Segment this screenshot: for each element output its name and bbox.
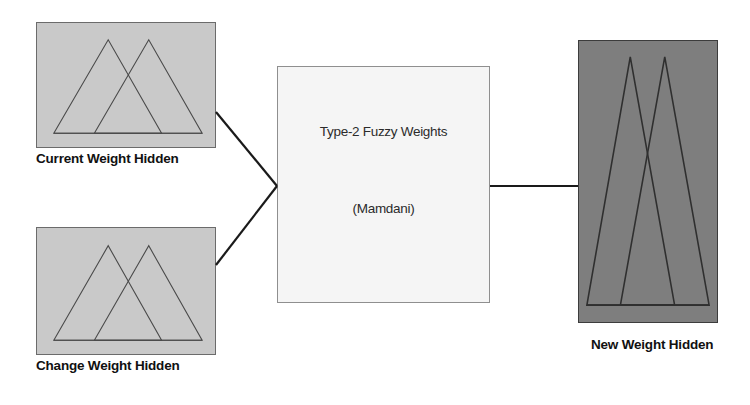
node-change-weight-hidden[interactable] [36, 227, 216, 355]
membership-functions-graphic [37, 23, 215, 147]
label-change-weight-hidden: Change Weight Hidden [36, 358, 180, 373]
label-current-weight-hidden: Current Weight Hidden [36, 151, 179, 166]
connector-current-weight-to-fuzzy [216, 112, 277, 186]
fuzzy-process-title: Type-2 Fuzzy Weights [320, 124, 447, 139]
diagram-canvas: Current Weight Hidden Change Weight Hidd… [0, 0, 750, 405]
fuzzy-process-subtitle: (Mamdani) [353, 201, 415, 216]
membership-functions-graphic [579, 41, 717, 322]
node-fuzzy-weights-process[interactable]: Type-2 Fuzzy Weights (Mamdani) [277, 66, 490, 303]
node-new-weight-hidden[interactable] [578, 40, 718, 323]
connector-change-weight-to-fuzzy [216, 186, 277, 265]
label-new-weight-hidden: New Weight Hidden [591, 337, 713, 352]
node-current-weight-hidden[interactable] [36, 22, 216, 148]
membership-functions-graphic [37, 228, 215, 354]
